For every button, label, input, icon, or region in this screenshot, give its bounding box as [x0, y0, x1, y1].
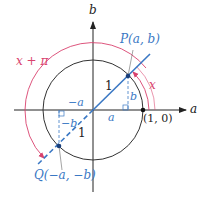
P-right-angle-mark — [123, 105, 128, 110]
angle-x-plus-pi-label: x + π — [16, 54, 48, 68]
point-Q — [57, 144, 62, 149]
unit-point-label: (1, 0) — [143, 112, 173, 125]
P-label: P(a, b) — [120, 32, 160, 46]
angle-x-label: x — [149, 78, 156, 92]
Q-right-angle-mark — [59, 111, 64, 116]
line-OP — [93, 54, 150, 110]
a-axis-label: a — [190, 102, 197, 116]
diagram-canvas — [0, 0, 204, 198]
Q-label: Q(−a, −b) — [34, 168, 96, 182]
neg-a-segment-label: −a — [68, 96, 84, 109]
b-axis-label: b — [89, 3, 97, 17]
neg-b-segment-label: −b — [61, 117, 77, 130]
radius-P-label: 1 — [105, 79, 113, 93]
arc-x-inner — [108, 94, 115, 110]
unit-circle-diagram: b a P(a, b) Q(−a, −b) (1, 0) x x + π 1 1… — [0, 0, 204, 198]
radius-Q-label: 1 — [78, 126, 86, 140]
a-segment-label: a — [108, 111, 115, 124]
Q-leader — [59, 146, 62, 170]
b-segment-label: b — [130, 90, 137, 103]
point-P — [126, 74, 131, 79]
